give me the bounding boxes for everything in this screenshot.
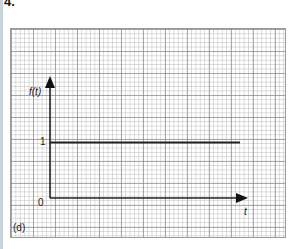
- y-tick-label: 1: [40, 136, 46, 147]
- x-axis-label: t: [244, 206, 247, 217]
- y-axis-arrow-icon: [45, 76, 55, 88]
- origin-label: 0: [38, 197, 44, 208]
- panel-label: (d): [13, 222, 25, 233]
- y-axis-label: f(t): [29, 86, 41, 97]
- x-axis-arrow-icon: [236, 193, 248, 203]
- plot-area: [0, 0, 298, 249]
